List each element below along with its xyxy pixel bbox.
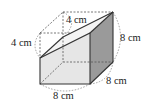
label-cut-height: 4 cm: [11, 37, 32, 48]
solid-diagram: 4 cm 4 cm 8 cm 8 cm 8 cm: [0, 0, 152, 109]
label-width: 8 cm: [53, 90, 74, 101]
label-right-height: 8 cm: [120, 32, 141, 43]
cut-height-arc: [35, 33, 40, 58]
label-top-depth: 4 cm: [66, 14, 87, 25]
label-depth: 8 cm: [106, 75, 127, 86]
